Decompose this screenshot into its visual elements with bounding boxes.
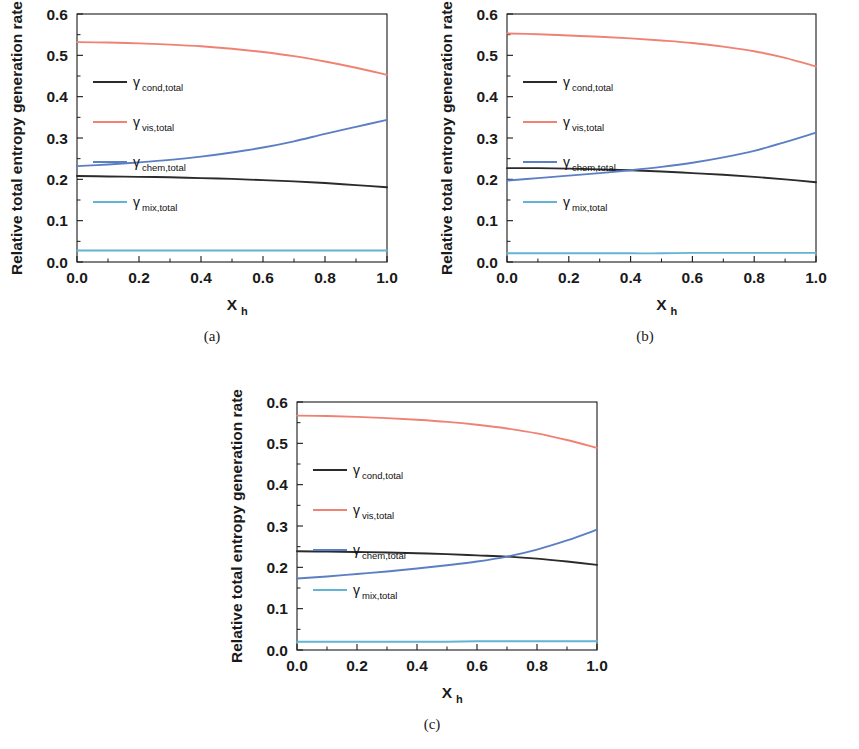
x-tick-label: 1.0 bbox=[805, 269, 827, 286]
plot-frame bbox=[297, 402, 597, 650]
y-tick-label: 0.4 bbox=[476, 88, 498, 105]
y-tick-label: 0.3 bbox=[476, 130, 498, 147]
y-tick-label: 0.0 bbox=[266, 642, 288, 659]
x-tick-label: 0.8 bbox=[743, 269, 765, 286]
y-tick-label: 0.3 bbox=[266, 518, 288, 535]
y-tick-label: 0.1 bbox=[46, 212, 68, 229]
x-tick-label: 0.2 bbox=[128, 269, 150, 286]
chart-svg-c: 0.00.20.40.60.81.00.00.10.20.30.40.50.6R… bbox=[220, 388, 640, 708]
x-tick-label: 0.6 bbox=[466, 657, 488, 674]
x-tick-label: 0.0 bbox=[66, 269, 88, 286]
series-line-vis bbox=[77, 42, 387, 75]
series-line-chem bbox=[77, 120, 387, 166]
x-tick-label: 0.0 bbox=[496, 269, 518, 286]
legend-label-vis: vis,total bbox=[572, 122, 604, 133]
y-tick-label: 0.6 bbox=[46, 6, 68, 23]
legend-symbol-vis: γ bbox=[353, 502, 360, 518]
legend-symbol-chem: γ bbox=[353, 542, 360, 558]
series-group bbox=[507, 33, 816, 253]
x-tick-label: 0.4 bbox=[406, 657, 428, 674]
series-line-vis bbox=[297, 416, 597, 448]
legend-label-cond: cond,total bbox=[142, 82, 183, 93]
y-tick-label: 0.4 bbox=[266, 476, 288, 493]
y-tick-label: 0.5 bbox=[46, 47, 68, 64]
chart-panel-a: 0.00.20.40.60.81.00.00.10.20.30.40.50.6R… bbox=[0, 0, 430, 320]
legend-symbol-mix: γ bbox=[133, 194, 140, 210]
y-tick-label: 0.1 bbox=[476, 212, 498, 229]
chart-panel-b: 0.00.20.40.60.81.00.00.10.20.30.40.50.6R… bbox=[430, 0, 859, 320]
panel-caption-b: (b) bbox=[625, 328, 665, 345]
legend-symbol-chem: γ bbox=[563, 154, 570, 170]
legend-label-chem: chem,total bbox=[572, 162, 616, 173]
x-axis-title: X bbox=[227, 296, 238, 313]
x-axis-title-subscript: h bbox=[241, 305, 248, 317]
legend: γcond,totalγvis,totalγchem,totalγmix,tot… bbox=[313, 462, 406, 601]
y-tick-label: 0.2 bbox=[476, 171, 498, 188]
x-tick-label: 1.0 bbox=[376, 269, 398, 286]
series-line-cond bbox=[77, 176, 387, 187]
plot-frame bbox=[77, 14, 387, 262]
legend-label-vis: vis,total bbox=[142, 122, 174, 133]
legend-label-cond: cond,total bbox=[362, 470, 403, 481]
y-tick-label: 0.1 bbox=[266, 600, 288, 617]
legend-label-chem: chem,total bbox=[142, 162, 186, 173]
legend-symbol-chem: γ bbox=[133, 154, 140, 170]
y-tick-label: 0.3 bbox=[46, 130, 68, 147]
x-tick-label: 0.6 bbox=[252, 269, 274, 286]
legend-label-chem: chem,total bbox=[362, 550, 406, 561]
series-line-cond bbox=[297, 551, 597, 565]
series-line-cond bbox=[507, 168, 816, 182]
y-tick-label: 0.2 bbox=[46, 171, 68, 188]
series-group bbox=[77, 42, 387, 250]
x-tick-label: 0.2 bbox=[558, 269, 580, 286]
legend-label-mix: mix,total bbox=[572, 202, 607, 213]
y-tick-label: 0.0 bbox=[476, 254, 498, 271]
series-line-vis bbox=[507, 33, 816, 66]
x-tick-label: 0.2 bbox=[346, 657, 368, 674]
y-axis-title: Relative total entropy generation rate bbox=[8, 1, 25, 275]
legend-label-cond: cond,total bbox=[572, 82, 613, 93]
plot-frame bbox=[507, 14, 816, 262]
x-axis-title-subscript: h bbox=[671, 305, 678, 317]
series-group bbox=[297, 416, 597, 642]
legend: γcond,totalγvis,totalγchem,totalγmix,tot… bbox=[93, 74, 186, 213]
legend-symbol-vis: γ bbox=[563, 114, 570, 130]
x-axis-title-subscript: h bbox=[456, 693, 463, 705]
x-tick-label: 1.0 bbox=[586, 657, 608, 674]
x-axis-title: X bbox=[442, 684, 453, 701]
y-tick-label: 0.4 bbox=[46, 88, 68, 105]
y-axis-title: Relative total entropy generation rate bbox=[438, 1, 455, 275]
y-axis-title: Relative total entropy generation rate bbox=[228, 389, 245, 663]
x-tick-label: 0.0 bbox=[286, 657, 308, 674]
y-tick-label: 0.6 bbox=[476, 6, 498, 23]
legend-symbol-cond: γ bbox=[563, 74, 570, 90]
chart-panel-c: 0.00.20.40.60.81.00.00.10.20.30.40.50.6R… bbox=[220, 388, 640, 708]
chart-svg-b: 0.00.20.40.60.81.00.00.10.20.30.40.50.6R… bbox=[430, 0, 859, 320]
legend-symbol-cond: γ bbox=[353, 462, 360, 478]
series-line-chem bbox=[507, 133, 816, 181]
panel-caption-c: (c) bbox=[412, 716, 452, 733]
x-tick-label: 0.4 bbox=[190, 269, 212, 286]
legend-symbol-vis: γ bbox=[133, 114, 140, 130]
legend-symbol-mix: γ bbox=[353, 582, 360, 598]
legend: γcond,totalγvis,totalγchem,totalγmix,tot… bbox=[523, 74, 616, 213]
y-tick-label: 0.6 bbox=[266, 394, 288, 411]
axis-ticks: 0.00.20.40.60.81.00.00.10.20.30.40.50.6 bbox=[266, 394, 607, 675]
x-tick-label: 0.8 bbox=[526, 657, 548, 674]
y-tick-label: 0.5 bbox=[476, 47, 498, 64]
legend-label-mix: mix,total bbox=[142, 202, 177, 213]
x-tick-label: 0.4 bbox=[620, 269, 642, 286]
chart-svg-a: 0.00.20.40.60.81.00.00.10.20.30.40.50.6R… bbox=[0, 0, 430, 320]
x-tick-label: 0.8 bbox=[314, 269, 336, 286]
legend-label-mix: mix,total bbox=[362, 590, 397, 601]
y-tick-label: 0.5 bbox=[266, 435, 288, 452]
legend-label-vis: vis,total bbox=[362, 510, 394, 521]
legend-symbol-cond: γ bbox=[133, 74, 140, 90]
panel-caption-a: (a) bbox=[192, 328, 232, 345]
legend-symbol-mix: γ bbox=[563, 194, 570, 210]
y-tick-label: 0.2 bbox=[266, 559, 288, 576]
x-axis-title: X bbox=[656, 296, 667, 313]
x-tick-label: 0.6 bbox=[682, 269, 704, 286]
y-tick-label: 0.0 bbox=[46, 254, 68, 271]
